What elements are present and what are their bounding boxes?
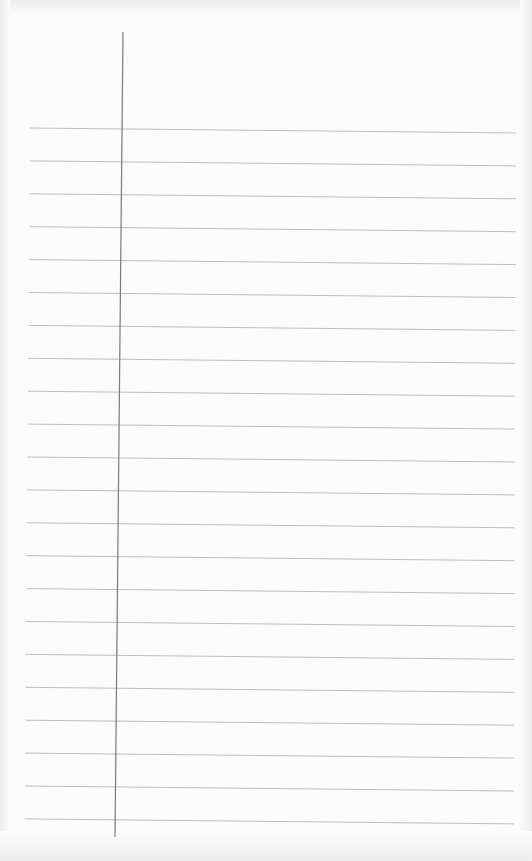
ruled-line — [27, 556, 515, 561]
ruled-line — [30, 161, 516, 166]
ruled-line — [29, 293, 516, 298]
ruled-line — [30, 194, 516, 199]
lined-paper — [0, 0, 532, 861]
ruled-line — [27, 523, 515, 528]
ruled-line — [25, 819, 514, 824]
ruled-line — [26, 720, 515, 725]
ruled-line — [26, 687, 515, 692]
margin-line — [115, 32, 123, 837]
ruled-line — [25, 786, 514, 791]
ruled-line — [28, 457, 516, 462]
ruled-line — [26, 622, 514, 627]
ruled-line — [30, 128, 516, 133]
ruled-line — [28, 358, 515, 363]
ruled-line — [28, 391, 515, 396]
ruled-line — [27, 589, 515, 594]
ruled-line — [25, 753, 514, 758]
ruled-line — [29, 260, 516, 265]
paper-rules — [0, 0, 532, 861]
ruled-line — [27, 490, 515, 495]
ruled-line — [26, 654, 514, 659]
ruled-line — [29, 325, 516, 330]
ruled-line — [29, 227, 515, 232]
ruled-line — [28, 424, 515, 429]
